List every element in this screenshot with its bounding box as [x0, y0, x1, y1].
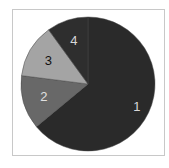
pie-slice-label-1: 1 — [133, 99, 140, 114]
pie-chart: 1234 — [0, 0, 169, 168]
pie-slice-label-4: 4 — [70, 33, 77, 48]
pie-slice-label-3: 3 — [45, 53, 52, 68]
pie-slice-label-2: 2 — [40, 89, 47, 104]
